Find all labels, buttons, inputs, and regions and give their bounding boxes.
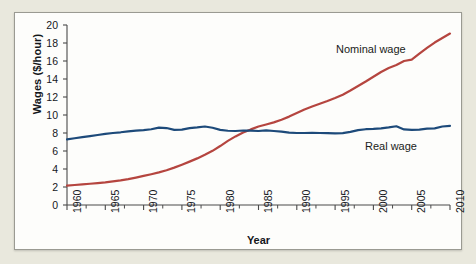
y-axis-tick-label: 16: [34, 56, 58, 67]
x-axis-tick-label: 1960: [72, 190, 83, 213]
series-line-real-wage: [67, 126, 450, 140]
y-axis-tick-label: 14: [34, 74, 58, 85]
series-group: [67, 34, 450, 186]
figure-container: Wages ($/hour) Year 02468101214161820 19…: [0, 0, 476, 264]
y-axis-tick-label: 4: [34, 164, 58, 175]
series-line-nominal-wage: [67, 34, 450, 186]
x-axis-tick-label: 1990: [301, 190, 312, 213]
x-axis-tick-label: 1970: [148, 190, 159, 213]
series-label-nominal-wage: Nominal wage: [336, 43, 406, 55]
x-axis-tick-label: 2005: [416, 190, 427, 213]
x-axis-tick-label: 1975: [186, 190, 197, 213]
y-axis-tick-label: 20: [34, 20, 58, 31]
y-axis-tick-label: 12: [34, 92, 58, 103]
plot-area: Wages ($/hour) Year 02468101214161820 19…: [0, 0, 476, 264]
y-axis-tick-label: 6: [34, 146, 58, 157]
series-label-real-wage: Real wage: [365, 140, 417, 152]
y-axis-tick-label: 10: [34, 110, 58, 121]
x-axis-tick-label: 2010: [455, 190, 466, 213]
y-axis-tick-label: 8: [34, 128, 58, 139]
x-axis-title: Year: [67, 234, 450, 246]
y-axis-tick-label: 0: [34, 200, 58, 211]
x-axis-tick-label: 1995: [340, 190, 351, 213]
y-axis-tick-label: 2: [34, 182, 58, 193]
chart-svg: [0, 0, 476, 264]
x-axis-tick-label: 1965: [110, 190, 121, 213]
x-axis-tick-label: 1985: [263, 190, 274, 213]
x-axis-tick-label: 2000: [378, 190, 389, 213]
x-axis-tick-label: 1980: [225, 190, 236, 213]
y-axis-tick-label: 18: [34, 38, 58, 49]
